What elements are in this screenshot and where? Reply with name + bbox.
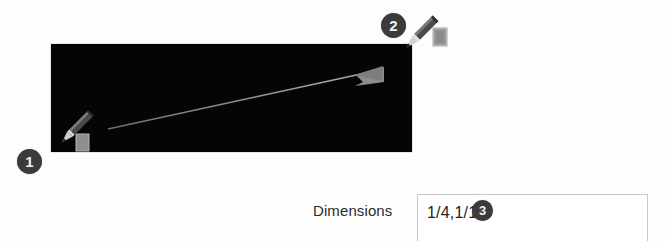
dimensions-label: Dimensions [313, 202, 392, 219]
dimensions-input[interactable]: 1/4,1/16 [417, 194, 648, 241]
callout-badge-2: 2 [381, 13, 406, 38]
figure-root: 1 2 Dimensions 1/4,1/16 3 [0, 0, 665, 241]
pencil-cursor-start [52, 106, 98, 154]
pencil-cursor-end [404, 12, 452, 60]
drag-arrow-shaft [108, 74, 361, 129]
canvas-content [51, 44, 412, 152]
anchor-square [76, 134, 89, 151]
callout-badge-3: 3 [472, 200, 493, 221]
callout-badge-1: 1 [17, 149, 42, 174]
pencil-icon [404, 12, 452, 60]
drawing-canvas[interactable] [51, 44, 412, 152]
pencil-icon [52, 106, 98, 154]
